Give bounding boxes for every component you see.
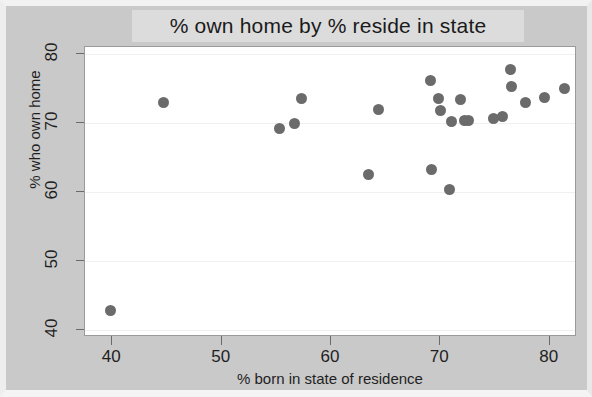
y-axis-tick bbox=[76, 122, 84, 123]
data-point bbox=[520, 97, 531, 108]
data-point bbox=[446, 116, 457, 127]
data-point bbox=[435, 105, 446, 116]
chart-figure: % own home by % reside in state 40506070… bbox=[0, 0, 592, 397]
data-point bbox=[506, 81, 517, 92]
data-point bbox=[274, 123, 285, 134]
x-axis-tick bbox=[221, 336, 222, 345]
y-axis-tick bbox=[76, 329, 84, 330]
gridline-y bbox=[85, 261, 575, 262]
y-axis-tick-label: 50 bbox=[6, 249, 62, 269]
y-axis-tick bbox=[76, 191, 84, 192]
gridline-y bbox=[85, 192, 575, 193]
x-axis-tick bbox=[549, 336, 550, 345]
data-point bbox=[289, 118, 300, 129]
data-point bbox=[105, 305, 116, 316]
y-axis-tick bbox=[76, 53, 84, 54]
x-axis-tick bbox=[330, 336, 331, 345]
x-axis-label: % born in state of residence bbox=[84, 370, 576, 387]
gridline-y bbox=[85, 54, 575, 55]
data-point bbox=[463, 115, 474, 126]
x-axis-tick bbox=[439, 336, 440, 345]
y-axis-tick-label-text: 70 bbox=[43, 111, 63, 130]
data-point bbox=[363, 169, 374, 180]
data-point bbox=[444, 184, 455, 195]
y-axis-label: % who own home bbox=[26, 30, 43, 230]
data-point bbox=[455, 94, 466, 105]
y-axis-tick bbox=[76, 260, 84, 261]
x-axis-tick bbox=[111, 336, 112, 345]
data-point bbox=[559, 83, 570, 94]
chart-title: % own home by % reside in state bbox=[132, 11, 524, 41]
x-axis-tick-label: 50 bbox=[191, 347, 251, 367]
plot-area bbox=[84, 46, 576, 336]
data-point bbox=[296, 93, 307, 104]
data-point bbox=[433, 93, 444, 104]
gridline-y bbox=[85, 123, 575, 124]
y-axis-tick-label-text: 50 bbox=[43, 250, 63, 269]
x-axis-tick-label: 40 bbox=[81, 347, 141, 367]
data-point bbox=[505, 64, 516, 75]
y-axis-tick-label: 40 bbox=[6, 318, 62, 338]
x-axis-tick-label: 60 bbox=[300, 347, 360, 367]
gridline-y bbox=[85, 330, 575, 331]
y-axis-tick-label-text: 80 bbox=[43, 42, 63, 61]
data-point bbox=[373, 104, 384, 115]
data-point bbox=[425, 75, 436, 86]
y-axis-tick-label-text: 40 bbox=[43, 319, 63, 338]
data-point bbox=[158, 97, 169, 108]
x-axis-tick-label: 70 bbox=[409, 347, 469, 367]
data-point bbox=[497, 111, 508, 122]
x-axis-tick-label: 80 bbox=[519, 347, 579, 367]
y-axis-tick-label-text: 60 bbox=[43, 181, 63, 200]
data-point bbox=[539, 92, 550, 103]
data-point bbox=[426, 164, 437, 175]
